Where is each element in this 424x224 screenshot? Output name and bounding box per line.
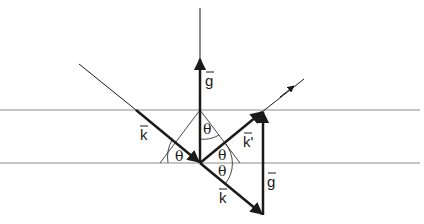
label-theta-right-lower: θ xyxy=(218,163,226,179)
label-g-top: g xyxy=(205,72,213,89)
angle-arc-left xyxy=(168,140,172,163)
label-k-incident: k xyxy=(140,126,148,143)
label-k-prime: k' xyxy=(243,133,254,150)
label-g-right: g xyxy=(267,173,275,190)
k-vector-lower xyxy=(200,163,262,214)
label-theta-top: θ xyxy=(203,121,211,137)
label-theta-left: θ xyxy=(175,148,183,164)
label-theta-right-upper: θ xyxy=(218,147,226,163)
diffracted-ray-arrow xyxy=(280,86,294,97)
incident-ray-line xyxy=(79,64,136,110)
diagram-canvas: g k k' k g θ θ θ θ xyxy=(0,0,424,224)
diffracted-ray-line xyxy=(262,79,304,112)
label-k-lower: k xyxy=(219,189,227,206)
